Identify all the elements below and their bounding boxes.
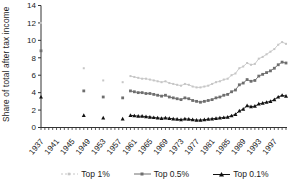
legend-item-top-05pct: Top 0.5% bbox=[134, 169, 189, 179]
x-tick-label: 1997 bbox=[261, 137, 280, 157]
y-tick-label: 14 bbox=[27, 1, 36, 10]
axes bbox=[41, 6, 288, 128]
x-axis: 1937194119451949195319571961196519691973… bbox=[27, 128, 286, 157]
x-tick-label: 1937 bbox=[27, 137, 46, 157]
y-tick-label: 12 bbox=[27, 19, 36, 28]
x-tick-label: 1961 bbox=[121, 137, 140, 157]
y-axis-title: Share of total after tax income bbox=[2, 6, 11, 122]
series-top-1- bbox=[40, 22, 287, 88]
x-tick-label: 1989 bbox=[229, 137, 248, 157]
x-tick-label: 1945 bbox=[58, 137, 77, 157]
y-tick-label: 4 bbox=[32, 88, 37, 97]
x-tick-label: 1965 bbox=[136, 137, 155, 157]
chart-svg: Share of total after tax income 02468101… bbox=[0, 0, 290, 181]
x-tick-label: 1953 bbox=[89, 137, 108, 157]
y-tick-label: 6 bbox=[32, 71, 37, 80]
y-axis: 02468101214 bbox=[27, 1, 41, 132]
legend: Top 1% Top 0.5% Top 0.1% bbox=[40, 169, 290, 179]
income-share-chart: Share of total after tax income 02468101… bbox=[0, 0, 290, 181]
y-tick-label: 0 bbox=[32, 123, 37, 132]
top-01pct-marker-icon bbox=[213, 170, 230, 179]
x-tick-label: 1949 bbox=[74, 137, 93, 157]
x-tick-label: 1981 bbox=[198, 137, 217, 157]
legend-label-top-05pct: Top 0.5% bbox=[154, 169, 189, 179]
top-05pct-marker-icon bbox=[134, 170, 151, 178]
x-tick-label: 1969 bbox=[152, 137, 171, 157]
top-1pct-marker-icon bbox=[61, 170, 78, 178]
x-tick-label: 1977 bbox=[183, 137, 202, 157]
y-tick-label: 10 bbox=[27, 36, 36, 45]
plot-area: 0246810121419371941194519491953195719611… bbox=[27, 1, 288, 156]
x-tick-label: 1993 bbox=[245, 137, 264, 157]
x-tick-label: 1973 bbox=[167, 137, 186, 157]
series bbox=[39, 22, 288, 122]
legend-label-top-01pct: Top 0.1% bbox=[233, 169, 268, 179]
series-top-0-1- bbox=[39, 93, 288, 122]
x-tick-label: 1985 bbox=[214, 137, 233, 157]
y-tick-label: 8 bbox=[32, 54, 37, 63]
y-tick-label: 2 bbox=[32, 106, 37, 115]
x-tick-label: 1957 bbox=[105, 137, 124, 157]
legend-label-top-1pct: Top 1% bbox=[81, 169, 109, 179]
legend-item-top-1pct: Top 1% bbox=[61, 169, 109, 179]
legend-item-top-01pct: Top 0.1% bbox=[213, 169, 268, 179]
series-top-0-5- bbox=[40, 49, 288, 103]
x-tick-label: 1941 bbox=[43, 137, 62, 157]
